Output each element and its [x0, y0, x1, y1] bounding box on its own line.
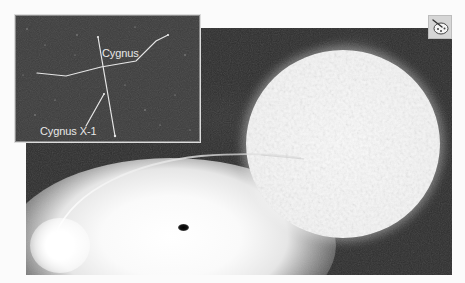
target-label: Cygnus X-1 — [40, 125, 96, 137]
constellation-lines — [15, 15, 200, 142]
supergiant-star — [246, 50, 440, 238]
palette-icon-glyph — [430, 17, 450, 37]
constellation-label: Cygnus — [102, 47, 139, 59]
accretion-hot-spot — [30, 218, 90, 273]
constellation-inset-map: Cygnus Cygnus X-1 — [14, 14, 201, 143]
black-hole — [178, 224, 189, 231]
palette-icon[interactable] — [428, 15, 452, 39]
figure: Cygnus Cygnus X-1 — [0, 0, 465, 283]
star-surface-texture — [246, 50, 440, 238]
